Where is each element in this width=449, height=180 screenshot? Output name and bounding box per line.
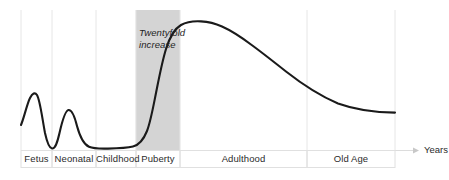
- x-axis-arrow-icon: [413, 148, 419, 154]
- stage-label-adulthood: Adulthood: [180, 152, 307, 166]
- x-axis-title: Years: [424, 144, 448, 155]
- stage-label-fetus: Fetus: [21, 152, 52, 166]
- stage-label-childhood: Childhood: [96, 152, 136, 166]
- annotation-line-1: Twentyfold: [139, 27, 185, 39]
- stage-label-old-age: Old Age: [307, 152, 395, 166]
- annotation-line-2: increase: [139, 39, 185, 51]
- hormone-level-curve: [21, 21, 395, 148]
- twentyfold-increase-annotation: Twentyfold increase: [139, 27, 185, 50]
- stage-label-puberty: Puberty: [136, 152, 180, 166]
- stage-label-neonatal: Neonatal: [52, 152, 96, 166]
- life-stages-chart: Twentyfold increase Fetus Neonatal Child…: [0, 0, 449, 180]
